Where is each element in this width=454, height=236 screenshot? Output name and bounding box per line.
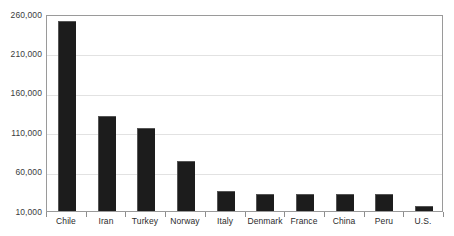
x-axis-label: China <box>324 216 364 227</box>
bar-chart: 10,00060,000110,000160,000210,000260,000… <box>0 0 454 236</box>
x-axis-tick <box>443 212 444 217</box>
x-axis-label: Turkey <box>125 216 165 227</box>
y-axis-tick-labels: 10,00060,000110,000160,000210,000260,000 <box>0 0 42 236</box>
y-axis-label: 160,000 <box>0 89 42 98</box>
y-axis-label: 10,000 <box>0 208 42 217</box>
x-axis-label: Norway <box>165 216 205 227</box>
x-axis-label: Denmark <box>245 216 285 227</box>
x-axis-label: Italy <box>205 216 245 227</box>
y-axis-label: 60,000 <box>0 168 42 177</box>
bar <box>375 194 393 211</box>
x-axis-label: Peru <box>364 216 404 227</box>
bar <box>336 194 354 211</box>
x-axis-label: Chile <box>46 216 86 227</box>
bar <box>58 21 76 211</box>
bar <box>296 194 314 211</box>
x-axis-tick-labels: ChileIranTurkeyNorwayItalyDenmarkFranceC… <box>46 216 443 232</box>
plot-area <box>46 15 443 212</box>
bar <box>415 206 433 211</box>
x-axis-label: Iran <box>86 216 126 227</box>
y-axis-label: 110,000 <box>0 129 42 138</box>
bar <box>98 116 116 211</box>
bar <box>177 161 195 211</box>
bar <box>256 194 274 211</box>
y-axis-label: 260,000 <box>0 11 42 20</box>
x-axis-label: France <box>284 216 324 227</box>
x-axis-label: U.S. <box>403 216 443 227</box>
y-axis-label: 210,000 <box>0 50 42 59</box>
bar <box>137 128 155 211</box>
bar <box>217 191 235 211</box>
bar-series <box>47 16 442 211</box>
